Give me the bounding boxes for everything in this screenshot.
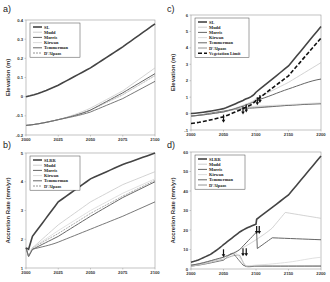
y-tick-label: 50 <box>183 169 188 174</box>
x-tick-label: 2000 <box>21 270 31 275</box>
x-tick-label: 2100 <box>251 132 261 137</box>
x-tick-label: 2025 <box>54 137 64 142</box>
y-tick-label: 3 <box>21 208 24 213</box>
y-tick-label: 40 <box>183 189 188 194</box>
y-tick-label: 0 <box>186 111 189 116</box>
x-tick-label: 2100 <box>251 271 261 276</box>
x-tick-label: 2050 <box>86 270 96 275</box>
x-tick-label: 2075 <box>118 137 128 142</box>
panel-b-accretion-chart: 2000202520502075210012345Accretion Rate … <box>3 140 160 275</box>
figure-canvas: 20002025205020752100-0.2-0.100.10.20.30.… <box>0 0 330 282</box>
x-tick-label: 2100 <box>150 270 160 275</box>
legend: SLMuddMorrisKirwanTemmermanD'AlpaosVeget… <box>195 18 249 57</box>
arrow-head-icon <box>244 109 248 112</box>
y-tick-label: -0.2 <box>16 133 24 138</box>
y-tick-label: 5 <box>21 151 24 156</box>
y-tick-label: 30 <box>183 208 188 213</box>
legend-label: D'Alpaos <box>44 184 62 189</box>
series-line-morris <box>26 81 155 125</box>
x-tick-label: 2050 <box>219 271 229 276</box>
x-tick-label: 2200 <box>316 132 326 137</box>
panel-letter: a) <box>3 4 11 14</box>
x-tick-label: 2025 <box>54 270 64 275</box>
y-axis-label: Elevation (m) <box>170 54 176 92</box>
legend-label: D'Alpaos <box>209 183 227 188</box>
x-tick-label: 2000 <box>186 132 196 137</box>
series-line-kirwan <box>26 76 155 126</box>
panel-c-elevation-chart: 20002050210021502200-10123456Elevation (… <box>167 4 326 137</box>
x-tick-label: 2050 <box>86 137 96 142</box>
panel-d-accretion-chart: 200020502100215022000102030405060Accreti… <box>167 140 326 276</box>
y-tick-label: 0 <box>21 94 24 99</box>
y-tick-label: 0.2 <box>17 56 23 61</box>
x-tick-label: 2150 <box>284 132 294 137</box>
x-tick-label: 2150 <box>284 271 294 276</box>
panel-letter: d) <box>167 140 175 150</box>
y-tick-label: 5 <box>186 29 189 34</box>
y-axis-label: Accretion Rate (mm/yr) <box>170 177 176 243</box>
panel-letter: b) <box>3 140 11 150</box>
y-tick-label: 1 <box>186 95 189 100</box>
x-tick-label: 2000 <box>21 137 31 142</box>
series-line-kirwan <box>26 179 155 257</box>
y-tick-label: 4 <box>21 179 24 184</box>
legend: SLRRMuddMorrisKirwanTemmermanD'Alpaos <box>30 156 80 190</box>
legend: SLRRMuddMorrisKirwanTemmermanD'Alpaos <box>195 155 245 189</box>
y-tick-label: 3 <box>186 62 189 67</box>
y-axis-label: Accretion Rate (mm/yr) <box>5 177 11 243</box>
x-tick-label: 2100 <box>150 137 160 142</box>
arrow-head-icon <box>241 253 245 256</box>
x-tick-label: 2050 <box>219 132 229 137</box>
y-tick-label: 4 <box>186 45 189 50</box>
y-tick-label: 2 <box>186 78 189 83</box>
series-line-d-alpaos <box>26 76 155 126</box>
legend: SLMuddMorrisKirwanTemmermanD'Alpaos <box>30 23 80 57</box>
y-tick-label: 0.4 <box>17 18 23 23</box>
y-tick-label: 60 <box>183 150 188 155</box>
arrow-head-icon <box>241 111 245 114</box>
panel-a-elevation-chart: 20002025205020752100-0.2-0.100.10.20.30.… <box>3 4 160 142</box>
arrow-head-icon <box>256 102 260 105</box>
x-tick-label: 2200 <box>316 271 326 276</box>
y-tick-label: 20 <box>183 228 188 233</box>
y-tick-label: -0.1 <box>16 113 24 118</box>
x-tick-label: 2000 <box>186 271 196 276</box>
legend-label: Vegetation Limit <box>209 51 241 56</box>
arrow-head-icon <box>257 231 261 234</box>
series-line-mudd <box>26 68 155 126</box>
y-tick-label: 10 <box>183 247 188 252</box>
legend-label: D'Alpaos <box>44 51 62 56</box>
arrow-head-icon <box>222 120 226 123</box>
y-axis-label: Elevation (m) <box>5 59 11 97</box>
y-tick-label: 0.1 <box>17 75 23 80</box>
x-tick-label: 2075 <box>118 270 128 275</box>
panel-letter: c) <box>167 4 175 14</box>
y-tick-label: 6 <box>186 13 189 18</box>
arrow-head-icon <box>244 253 248 256</box>
y-tick-label: 0.3 <box>17 37 23 42</box>
y-tick-label: 2 <box>21 237 24 242</box>
